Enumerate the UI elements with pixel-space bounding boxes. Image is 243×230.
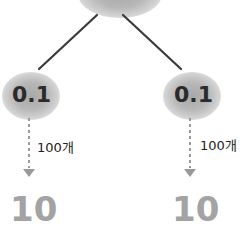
left-node-label: 0.1	[12, 84, 51, 106]
right-count-label: 100개	[200, 139, 237, 152]
right-node-label: 0.1	[174, 84, 213, 106]
left-count-label: 100개	[37, 141, 74, 154]
right-result: 10	[172, 192, 219, 226]
edge-right	[123, 15, 181, 69]
down-arrow-icon	[183, 118, 197, 180]
edge-left	[39, 15, 97, 69]
down-arrow-icon	[22, 118, 36, 180]
left-result: 10	[10, 192, 57, 226]
